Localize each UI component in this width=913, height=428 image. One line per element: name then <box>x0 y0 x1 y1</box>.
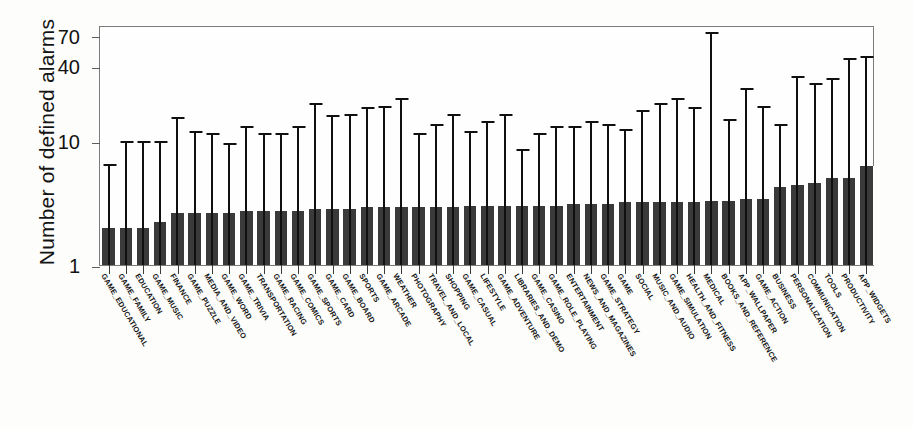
bar-slot[interactable] <box>203 27 220 265</box>
error-bar-cap <box>671 98 684 100</box>
error-bar-cap <box>844 58 857 60</box>
bar-slot[interactable] <box>599 27 616 265</box>
bar-slot[interactable] <box>720 27 737 265</box>
bar-slot[interactable] <box>823 27 840 265</box>
error-bar <box>297 126 299 265</box>
bar-slot[interactable] <box>410 27 427 265</box>
error-bar <box>383 106 385 265</box>
bar-slot[interactable] <box>100 27 117 265</box>
error-bar <box>590 121 592 265</box>
error-bar-cap <box>293 126 306 128</box>
bar-slot[interactable] <box>531 27 548 265</box>
bar-slot[interactable] <box>221 27 238 265</box>
bar-slot[interactable] <box>565 27 582 265</box>
error-bar <box>400 98 402 265</box>
bar-slot[interactable] <box>479 27 496 265</box>
error-bar-cap <box>172 117 185 119</box>
error-bar-cap <box>775 124 788 126</box>
error-bar-cap <box>620 129 633 131</box>
error-bar-cap <box>310 103 323 105</box>
error-bar-cap <box>258 133 271 135</box>
error-bar-cap <box>465 131 478 133</box>
bar-slot[interactable] <box>841 27 858 265</box>
error-bar <box>624 129 626 265</box>
bar-slot[interactable] <box>134 27 151 265</box>
bar-slot[interactable] <box>754 27 771 265</box>
error-bar <box>779 124 781 265</box>
bar-slot[interactable] <box>272 27 289 265</box>
bar-slot[interactable] <box>341 27 358 265</box>
bar-slot[interactable] <box>186 27 203 265</box>
bar-slot[interactable] <box>462 27 479 265</box>
error-bar <box>641 110 643 265</box>
error-bar-cap <box>103 164 116 166</box>
bar-slot[interactable] <box>307 27 324 265</box>
plot-area: 1104070 <box>99 26 874 266</box>
bar-slot[interactable] <box>617 27 634 265</box>
bar-slot[interactable] <box>806 27 823 265</box>
y-axis-tick-label: 1 <box>69 256 80 276</box>
error-bar <box>676 98 678 265</box>
bar-slot[interactable] <box>513 27 530 265</box>
error-bar-cap <box>706 32 719 34</box>
bar-slot[interactable] <box>393 27 410 265</box>
error-bar <box>573 126 575 265</box>
error-bar-cap <box>396 98 409 100</box>
error-bar-cap <box>758 106 771 108</box>
y-axis-tick <box>92 37 100 38</box>
bar-slot[interactable] <box>289 27 306 265</box>
bar-slot[interactable] <box>651 27 668 265</box>
error-bar-cap <box>275 133 288 135</box>
bar-slot[interactable] <box>548 27 565 265</box>
bar-slot[interactable] <box>668 27 685 265</box>
bar-slot[interactable] <box>789 27 806 265</box>
error-bar-cap <box>551 126 564 128</box>
error-bar <box>538 133 540 265</box>
bar-slot[interactable] <box>117 27 134 265</box>
error-bar-cap <box>792 76 805 78</box>
error-bar-cap <box>430 124 443 126</box>
y-axis-tick-label: 40 <box>58 57 80 77</box>
bar-slot[interactable] <box>152 27 169 265</box>
error-bar <box>418 133 420 265</box>
bar-slot[interactable] <box>427 27 444 265</box>
error-bar-cap <box>534 133 547 135</box>
error-bar-cap <box>413 133 426 135</box>
error-bar <box>693 107 695 265</box>
error-bar-cap <box>224 143 237 145</box>
error-bar-cap <box>826 78 839 80</box>
y-axis-title: Number of defined alarms <box>35 17 59 267</box>
bar-slot[interactable] <box>772 27 789 265</box>
bar-slot[interactable] <box>169 27 186 265</box>
bar-slot[interactable] <box>255 27 272 265</box>
error-bar <box>314 103 316 265</box>
bar-slot[interactable] <box>582 27 599 265</box>
error-bar <box>331 115 333 265</box>
bar-slot[interactable] <box>376 27 393 265</box>
error-bar-cap <box>120 141 133 143</box>
error-bar-cap <box>327 115 340 117</box>
error-bar <box>125 141 127 265</box>
error-bar <box>108 164 110 265</box>
bar-slot[interactable] <box>634 27 651 265</box>
bar-slot[interactable] <box>238 27 255 265</box>
error-bar <box>865 56 867 265</box>
error-bar-cap <box>723 119 736 121</box>
bar-slot[interactable] <box>496 27 513 265</box>
bar-slot[interactable] <box>858 27 875 265</box>
bar-slot[interactable] <box>737 27 754 265</box>
error-bar-cap <box>448 114 461 116</box>
error-bar <box>814 83 816 265</box>
error-bar <box>848 58 850 265</box>
error-bar <box>486 121 488 265</box>
bar-slot[interactable] <box>444 27 461 265</box>
error-bar-cap <box>379 106 392 108</box>
bar-slot[interactable] <box>703 27 720 265</box>
bar-slot[interactable] <box>358 27 375 265</box>
error-bar <box>796 76 798 265</box>
bar-slot[interactable] <box>324 27 341 265</box>
error-bar-cap <box>809 83 822 85</box>
bar-slot[interactable] <box>686 27 703 265</box>
error-bar-cap <box>241 126 254 128</box>
error-bar-cap <box>568 126 581 128</box>
